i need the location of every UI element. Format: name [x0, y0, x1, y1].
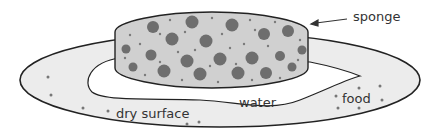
label-water: water: [239, 96, 276, 109]
label-food: food: [342, 92, 371, 105]
sponge: [115, 12, 308, 88]
label-sponge: sponge: [353, 10, 400, 23]
label-dry-surface: dry surface: [116, 107, 189, 120]
sponge-arrow: [311, 19, 347, 26]
